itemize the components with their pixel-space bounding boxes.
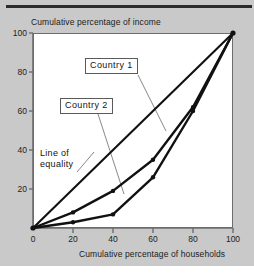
x-tick-label-40: 40 (103, 234, 123, 244)
chart-svg (0, 0, 254, 274)
y-tick-label-60: 60 (5, 106, 27, 116)
callout-country-1: Country 1 (85, 58, 138, 74)
leader-line-equality (77, 152, 94, 172)
series-country-2-markers (71, 109, 195, 225)
y-tick-label-100: 100 (5, 28, 27, 38)
y-tick-label-80: 80 (5, 67, 27, 77)
x-tick-label-100: 100 (223, 234, 243, 244)
lorenz-curve-figure: Cumulative percentage of income Cumulati… (0, 0, 254, 274)
y-tick-label-40: 40 (5, 145, 27, 155)
equality-note-line-2: equality (40, 159, 73, 170)
y-axis-title: Cumulative percentage of income (31, 17, 161, 27)
equality-note-line-1: Line of (40, 148, 73, 159)
x-tick-label-0: 0 (23, 234, 43, 244)
equality-line-note: Line of equality (40, 148, 73, 170)
callout-country-2: Country 2 (60, 98, 113, 114)
x-axis-title: Cumulative percentage of households (79, 249, 225, 259)
y-tick-label-20: 20 (5, 184, 27, 194)
leader-line-country-2 (98, 114, 124, 194)
x-tick-label-80: 80 (183, 234, 203, 244)
x-tick-label-60: 60 (143, 234, 163, 244)
x-tick-label-20: 20 (63, 234, 83, 244)
